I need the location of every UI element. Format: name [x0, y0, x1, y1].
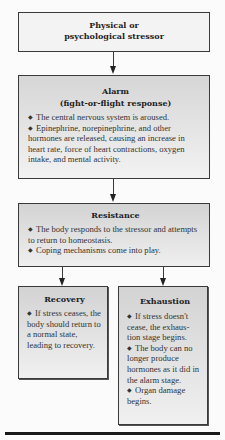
recovery-bullet: ◆If stress ceases, the body should retur… — [27, 308, 102, 350]
alarm-bullet: ◆The central nervous system is aroused. — [28, 112, 203, 123]
exhaustion-bullet-text: If stress doesn't cease, the exhaus- tio… — [127, 311, 189, 342]
exhaustion-title: Exhaustion — [127, 296, 203, 307]
alarm-bullet: ◆Epinephrine, norepinephrine, and other … — [28, 123, 203, 165]
exhaustion-bullet-list: ◆If stress doesn't cease, the exhaus- ti… — [127, 311, 203, 406]
exhaustion-bullet-text: The body can no longer produce hormones … — [127, 343, 199, 385]
resistance-bullet-text: Coping mechanisms come into play. — [36, 245, 161, 255]
diamond-bullet-icon: ◆ — [28, 226, 33, 232]
arrow-down-icon — [110, 194, 116, 202]
arrow-down-icon — [110, 66, 116, 74]
exhaustion-bullet: ◆The body can no longer produce hormones… — [127, 343, 203, 385]
arrow-down-icon — [59, 278, 65, 286]
resistance-bullet-list: ◆The body responds to the stressor and a… — [28, 224, 203, 256]
diamond-bullet-icon: ◆ — [127, 387, 132, 393]
resistance-bullet: ◆Coping mechanisms come into play. — [28, 245, 203, 256]
exhaustion-bullet: ◆Organ damage begins. — [127, 385, 203, 406]
diamond-bullet-icon: ◆ — [127, 313, 132, 319]
diamond-bullet-icon: ◆ — [28, 114, 33, 120]
alarm-box: Alarm (fight-or-flight response) ◆The ce… — [18, 75, 210, 179]
alarm-subtitle: (fight-or-flight response) — [28, 98, 203, 109]
resistance-title: Resistance — [28, 210, 203, 221]
diamond-bullet-icon: ◆ — [28, 125, 33, 131]
alarm-bullet-text: Epinephrine, norepinephrine, and other h… — [28, 123, 185, 165]
stressor-title-line2: psychological stressor — [19, 31, 209, 42]
recovery-bullet-text: If stress ceases, the body should return… — [27, 308, 101, 350]
resistance-bullet: ◆The body responds to the stressor and a… — [28, 224, 203, 245]
diamond-bullet-icon: ◆ — [28, 247, 33, 253]
alarm-bullet-list: ◆The central nervous system is aroused. … — [28, 112, 203, 165]
exhaustion-bullet-text: Organ damage begins. — [127, 385, 185, 406]
alarm-title: Alarm — [28, 86, 203, 97]
recovery-box: Recovery ◆If stress ceases, the body sho… — [18, 286, 108, 379]
diamond-bullet-icon: ◆ — [27, 310, 32, 316]
resistance-box: Resistance ◆The body responds to the str… — [18, 203, 210, 267]
exhaustion-box: Exhaustion ◆If stress doesn't cease, the… — [118, 286, 208, 425]
diamond-bullet-icon: ◆ — [127, 345, 132, 351]
recovery-title: Recovery — [27, 294, 102, 305]
arrow-down-icon — [160, 278, 166, 286]
exhaustion-bullet: ◆If stress doesn't cease, the exhaus- ti… — [127, 311, 203, 343]
resistance-bullet-text: The body responds to the stressor and at… — [28, 224, 197, 245]
recovery-bullet-list: ◆If stress ceases, the body should retur… — [27, 308, 102, 350]
stressor-box: Physical or psychological stressor — [18, 12, 210, 52]
bottom-divider — [5, 432, 220, 435]
stressor-title-line1: Physical or — [19, 20, 209, 31]
alarm-bullet-text: The central nervous system is aroused. — [36, 112, 169, 122]
